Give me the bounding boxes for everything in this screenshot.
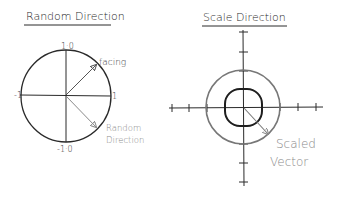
scale-direction-panel: Scale Direction Scaled Vector xyxy=(169,11,323,186)
scaled-label-line1: Scaled xyxy=(276,137,316,151)
label-left: -1 xyxy=(14,91,22,100)
scale-horizontal-axis xyxy=(169,107,323,108)
scaled-label-line2: Vector xyxy=(270,155,308,169)
left-title: Random Direction xyxy=(26,10,125,23)
facing-label: facing xyxy=(99,57,126,67)
label-bottom: -1·0 xyxy=(57,145,73,154)
label-right: 1 xyxy=(112,92,117,101)
random-label-line1: Random xyxy=(106,123,141,133)
scaled-vector-arrow xyxy=(244,108,268,134)
diagram-canvas: Random Direction 1·0 -1·0 -1 1 facing Ra… xyxy=(0,0,338,198)
label-top: 1·0 xyxy=(61,42,74,51)
horizontal-axis xyxy=(20,95,111,96)
facing-arrow xyxy=(66,65,96,95)
right-title: Scale Direction xyxy=(203,11,286,24)
random-label-line2: Direction xyxy=(106,135,144,145)
random-direction-arrow xyxy=(66,96,96,127)
random-direction-panel: Random Direction 1·0 -1·0 -1 1 facing Ra… xyxy=(14,10,144,154)
